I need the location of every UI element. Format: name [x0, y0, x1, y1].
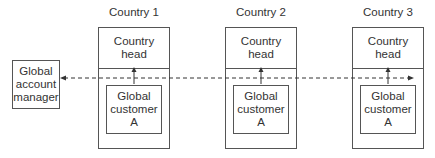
country-2-up-arrow-icon	[259, 67, 264, 72]
arrowhead-left-icon	[60, 76, 66, 81]
arrowhead-right-icon	[408, 76, 414, 81]
country-3-up-arrow-icon	[386, 67, 391, 72]
country-1-up-arrow-icon	[132, 67, 137, 72]
connectors	[0, 0, 435, 158]
